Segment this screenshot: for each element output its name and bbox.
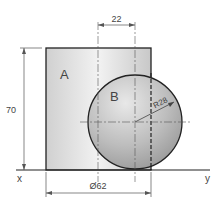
technical-drawing: 22 70 Ø62 R28 A B x y — [0, 0, 222, 204]
dim-70-label: 70 — [6, 105, 16, 115]
label-a: A — [60, 67, 69, 82]
label-b: B — [110, 89, 119, 104]
axis-y-label: y — [205, 173, 210, 184]
arrow-icon — [98, 23, 104, 27]
arrow-icon — [129, 23, 135, 27]
axis-x-label: x — [17, 173, 22, 184]
arrow-icon — [22, 164, 26, 170]
arrow-icon — [22, 48, 26, 54]
dim-62-label: Ø62 — [89, 181, 106, 191]
arrow-icon — [145, 191, 151, 195]
arrow-icon — [46, 191, 52, 195]
dim-22-label: 22 — [111, 14, 121, 24]
